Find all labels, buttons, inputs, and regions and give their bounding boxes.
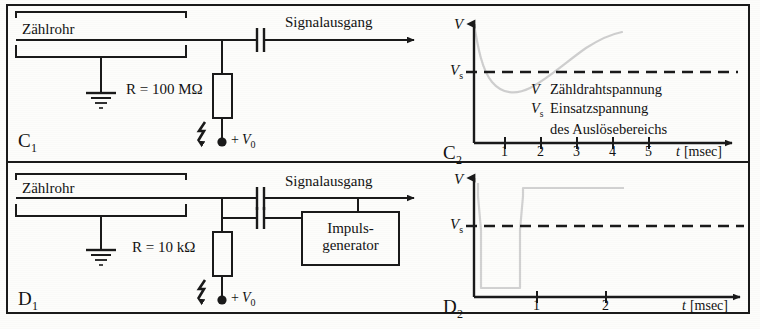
pulse-generator-label-line1: Impuls- bbox=[302, 220, 399, 237]
panel-id-d2: D2 bbox=[443, 297, 463, 320]
threshold-symbol-d2: V bbox=[450, 216, 459, 232]
threshold-label-c2: Vs bbox=[450, 63, 463, 81]
high-voltage-zigzag-icon-c1 bbox=[198, 122, 205, 141]
counter-tube-label-d1: Zählrohr bbox=[22, 181, 74, 196]
resistor-symbol-c1 bbox=[213, 74, 232, 118]
legend-row-0: V Zähldrahtspannung bbox=[531, 80, 667, 99]
panel-id-d1-sub: 1 bbox=[32, 299, 38, 313]
voltage-trace-d2 bbox=[478, 183, 624, 288]
ground-symbol-d1 bbox=[86, 216, 116, 265]
legend-text-1: Einsatzspannung bbox=[550, 99, 648, 120]
x-axis-unit-text-c2: [msec] bbox=[684, 144, 722, 159]
panel-id-d1-base: D bbox=[18, 288, 32, 309]
legend-row-1: Vs Einsatzspannung bbox=[531, 99, 667, 120]
x-tick-label-c2-3: 3 bbox=[573, 145, 580, 159]
signal-output-label-c1: Signalausgang bbox=[285, 15, 373, 30]
diagram-vector-layer bbox=[0, 0, 760, 329]
legend-row-2: des Auslösebereichs bbox=[531, 120, 667, 139]
supply-terminal-d1 bbox=[217, 295, 226, 304]
panel-id-c1-sub: 1 bbox=[31, 141, 37, 155]
panel-d2-chart bbox=[466, 178, 744, 303]
resistor-label-d1: R = 10 kΩ bbox=[132, 240, 195, 255]
capacitor-symbol-c1 bbox=[257, 28, 264, 52]
supply-label-c1: +V0 bbox=[231, 133, 255, 150]
legend-c2: V Zähldrahtspannung Vs Einsatzspannung d… bbox=[531, 80, 667, 138]
pulse-generator-label-line2: generator bbox=[302, 237, 399, 254]
x-axis-unit-d2: t[msec] bbox=[682, 299, 728, 313]
panel-id-c2-base: C bbox=[443, 142, 456, 163]
high-voltage-zigzag-icon-d1 bbox=[198, 280, 205, 299]
threshold-symbol-c2: V bbox=[450, 62, 459, 78]
threshold-sub-c2: s bbox=[459, 70, 463, 81]
supply-sub-d1: 0 bbox=[250, 297, 255, 308]
threshold-sub-d2: s bbox=[459, 224, 463, 235]
x-tick-label-c2-1: 1 bbox=[501, 145, 508, 159]
panel-id-c2-sub: 2 bbox=[456, 153, 462, 167]
panel-id-c1: C1 bbox=[18, 131, 37, 154]
resistor-label-c1: R = 100 MΩ bbox=[126, 82, 203, 97]
panel-id-d2-base: D bbox=[443, 296, 457, 317]
x-axis-symbol-d2: t bbox=[682, 298, 686, 313]
x-axis-unit-text-d2: [msec] bbox=[690, 298, 728, 313]
x-tick-label-c2-5: 5 bbox=[645, 145, 652, 159]
legend-text-0: Zähldrahtspannung bbox=[550, 80, 662, 99]
x-tick-label-d2-1: 1 bbox=[533, 299, 540, 313]
x-tick-label-c2-2: 2 bbox=[537, 145, 544, 159]
figure-root: Zählrohr R = 100 MΩ Signalausgang +V0 C1… bbox=[0, 0, 760, 329]
x-axis-symbol-c2: t bbox=[676, 144, 680, 159]
panel-id-c2: C2 bbox=[443, 143, 462, 166]
x-tick-label-c2-4: 4 bbox=[609, 145, 616, 159]
capacitor-symbol-upper-d1 bbox=[257, 187, 264, 210]
panel-c1-circuit bbox=[16, 12, 414, 147]
signal-output-label-d1: Signalausgang bbox=[285, 174, 373, 189]
y-axis-label-c2: V bbox=[454, 17, 463, 32]
legend-symbol-0: V bbox=[531, 80, 550, 99]
legend-text-2: des Auslösebereichs bbox=[550, 120, 667, 139]
panel-id-d1: D1 bbox=[18, 289, 38, 312]
x-tick-label-d2-2: 2 bbox=[602, 299, 609, 313]
supply-terminal-c1 bbox=[217, 137, 226, 146]
panel-id-c1-base: C bbox=[18, 130, 31, 151]
threshold-label-d2: Vs bbox=[450, 217, 463, 235]
counter-tube-label-c1: Zählrohr bbox=[22, 22, 74, 37]
legend-symbol-2 bbox=[531, 120, 550, 139]
resistor-symbol-d1 bbox=[213, 232, 232, 276]
x-axis-unit-c2: t[msec] bbox=[676, 145, 722, 159]
y-axis-label-d2: V bbox=[454, 172, 463, 187]
pulse-generator-label-d1: Impuls- generator bbox=[302, 220, 399, 254]
supply-sign-c1: + bbox=[231, 132, 239, 147]
supply-sub-c1: 0 bbox=[250, 139, 255, 150]
ground-symbol-c1 bbox=[86, 57, 116, 108]
capacitor-symbol-lower-d1 bbox=[257, 207, 264, 229]
legend-symbol-1: Vs bbox=[531, 99, 550, 120]
supply-sign-d1: + bbox=[231, 290, 239, 305]
supply-label-d1: +V0 bbox=[231, 291, 255, 308]
panel-id-d2-sub: 2 bbox=[457, 307, 463, 321]
